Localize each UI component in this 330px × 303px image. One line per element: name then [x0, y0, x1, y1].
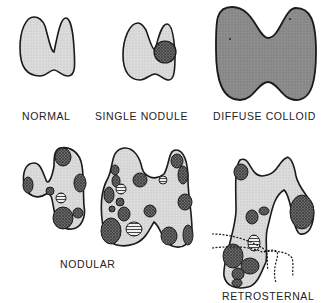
nodular-thyroid-small: [23, 148, 86, 229]
nodular-thyroid-large: [101, 148, 193, 247]
diffuse-colloid-thyroid: [216, 7, 316, 100]
label-normal: NORMAL: [22, 110, 71, 122]
goiter-diagram: [0, 0, 330, 303]
single-nodule-thyroid: [123, 23, 176, 80]
nodule: [154, 41, 176, 63]
label-retrosternal: RETROSTERNAL: [222, 290, 314, 302]
label-nodular: NODULAR: [60, 258, 116, 270]
label-single-nodule: SINGLE NODULE: [95, 110, 188, 122]
normal-thyroid: [20, 17, 75, 76]
retrosternal-thyroid: [212, 157, 314, 288]
label-diffuse-colloid: DIFFUSE COLLOID: [213, 110, 316, 122]
